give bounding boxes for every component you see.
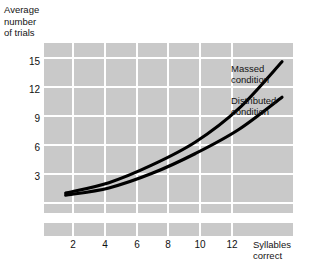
x-tick-label: 10 — [188, 240, 212, 250]
axis-band — [44, 223, 295, 236]
chart-figure: Average number of trials 1512963 Massed … — [0, 0, 309, 278]
axis-band-block — [169, 223, 199, 236]
axis-band-block — [74, 223, 104, 236]
y-tick-label: 6 — [2, 143, 40, 153]
y-tick-labels: 1512963 — [0, 0, 40, 278]
legend-distributed-condition: Distributed condition — [231, 95, 276, 118]
legend-massed-condition: Massed condition — [231, 63, 269, 86]
axis-band-block — [44, 223, 72, 236]
y-tick-label: 3 — [2, 172, 40, 182]
axis-band-block — [138, 223, 167, 236]
y-tick-label: 12 — [2, 85, 40, 95]
x-tick-label: 6 — [125, 240, 149, 250]
x-tick-label: 8 — [156, 240, 180, 250]
x-tick-label: 4 — [93, 240, 117, 250]
axis-band-block — [106, 223, 136, 236]
axis-band-block — [201, 223, 231, 236]
y-tick-label: 15 — [2, 57, 40, 67]
y-tick-label: 9 — [2, 114, 40, 124]
x-axis-title: Syllables correct — [253, 239, 291, 262]
x-tick-label: 12 — [220, 240, 244, 250]
x-tick-label: 2 — [61, 240, 85, 250]
axis-band-block — [233, 223, 293, 236]
